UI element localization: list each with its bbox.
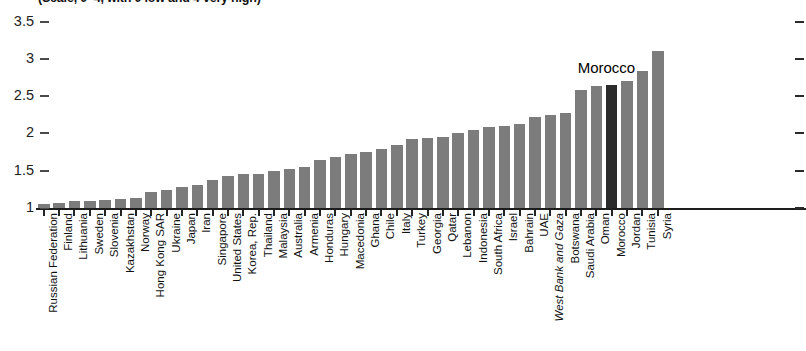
x-axis-label: Chile bbox=[385, 213, 397, 239]
y-axis-tick-mark-right bbox=[795, 132, 804, 134]
x-axis-label: Armenia bbox=[309, 213, 321, 256]
bar bbox=[299, 167, 311, 208]
x-axis-label: Tunisia bbox=[646, 213, 658, 250]
x-axis-label: Russian Federation bbox=[48, 213, 60, 313]
x-axis-label: Finland bbox=[63, 213, 75, 251]
bar bbox=[99, 200, 111, 208]
x-axis-label: Slovenia bbox=[109, 213, 121, 257]
x-axis-label: Australia bbox=[293, 213, 305, 258]
y-axis-tick-label: 2 bbox=[0, 125, 34, 140]
y-axis-tick-label: 1.5 bbox=[0, 163, 34, 178]
bar bbox=[222, 176, 234, 208]
bar bbox=[69, 201, 81, 208]
bar bbox=[545, 115, 557, 208]
bar bbox=[529, 117, 541, 208]
bar bbox=[161, 190, 173, 208]
x-axis-label: Sweden bbox=[94, 213, 106, 255]
bar bbox=[514, 124, 526, 208]
y-axis-tick-mark bbox=[40, 170, 49, 172]
y-axis-tick-mark-right bbox=[795, 21, 804, 23]
bar bbox=[330, 157, 342, 208]
y-axis-tick-mark bbox=[40, 132, 49, 134]
bar bbox=[637, 71, 649, 208]
x-axis-label: Kazakhstan bbox=[125, 213, 137, 273]
x-axis-label: Qatar bbox=[447, 213, 459, 242]
y-axis-tick-mark-right bbox=[795, 170, 804, 172]
bar bbox=[575, 90, 587, 208]
x-axis-label: Malaysia bbox=[278, 213, 290, 258]
bar bbox=[176, 187, 188, 208]
bar bbox=[314, 160, 326, 208]
x-axis-label: Japan bbox=[186, 213, 198, 244]
y-axis-tick-label: 2.5 bbox=[0, 88, 34, 103]
x-axis-label: Oman bbox=[600, 213, 612, 244]
x-axis-label: Lithuania bbox=[78, 213, 90, 260]
x-axis-label: Thailand bbox=[263, 213, 275, 257]
x-axis-label: Bahrain bbox=[524, 213, 536, 253]
x-axis-label: Honduras bbox=[324, 213, 336, 263]
bar bbox=[437, 137, 449, 208]
x-axis-label: Jordan bbox=[631, 213, 643, 248]
x-axis-tick bbox=[43, 210, 45, 216]
plot-area: 11.522.533.5 Russian FederationFinlandLi… bbox=[0, 0, 806, 351]
bar bbox=[84, 201, 96, 208]
bar bbox=[192, 185, 204, 208]
x-axis-label: South Africa bbox=[493, 213, 505, 275]
x-axis-label: Iran bbox=[201, 213, 213, 233]
x-axis-label: UAE bbox=[539, 213, 551, 237]
bar bbox=[130, 198, 142, 208]
y-axis-tick-mark bbox=[40, 21, 49, 23]
bar bbox=[468, 130, 480, 208]
bar bbox=[345, 154, 357, 208]
y-axis-tick-mark-right bbox=[795, 58, 804, 60]
x-axis-label: Israel bbox=[508, 213, 520, 241]
x-axis-label: Saudi Arabia bbox=[585, 213, 597, 278]
bar bbox=[376, 149, 388, 208]
x-axis-label: Hungary bbox=[339, 213, 351, 256]
bar bbox=[560, 113, 572, 208]
x-axis-label: Indonesia bbox=[478, 213, 490, 263]
x-axis-label: Italy bbox=[401, 213, 413, 234]
bar bbox=[145, 192, 157, 208]
x-axis-label: Lebanon bbox=[462, 213, 474, 258]
x-axis-label: Hong Kong SAR bbox=[155, 213, 167, 297]
x-axis-label: Macedonia bbox=[355, 213, 367, 269]
x-axis-label: Korea, Rep. bbox=[247, 213, 259, 274]
x-axis-label: Syria bbox=[662, 213, 674, 239]
x-axis-label: Morocco bbox=[616, 213, 628, 257]
bar bbox=[621, 81, 633, 208]
bar bbox=[452, 133, 464, 208]
y-axis-tick-label: 1 bbox=[0, 200, 34, 215]
bar bbox=[499, 126, 511, 208]
y-axis-tick-label: 3.5 bbox=[0, 14, 34, 29]
bar-annotation-label: Morocco bbox=[578, 59, 636, 76]
bar bbox=[207, 180, 219, 208]
bar bbox=[391, 145, 403, 208]
y-axis-tick-label: 3 bbox=[0, 51, 34, 66]
y-axis-tick-mark-right bbox=[795, 207, 804, 209]
bar bbox=[268, 171, 280, 208]
bar bbox=[406, 139, 418, 208]
y-axis-tick-mark bbox=[40, 95, 49, 97]
y-axis-tick-mark-right bbox=[795, 95, 804, 97]
x-axis-label: Singapore bbox=[217, 213, 229, 265]
y-axis-tick-mark bbox=[40, 58, 49, 60]
bar bbox=[115, 199, 127, 208]
x-axis-label: Norway bbox=[140, 213, 152, 252]
x-axis-label: West Bank and Gaza bbox=[554, 213, 566, 321]
x-axis-label: United States bbox=[232, 213, 244, 282]
bar bbox=[38, 204, 50, 208]
bar bbox=[606, 85, 618, 208]
x-axis-label: Botswana bbox=[570, 213, 582, 264]
bar bbox=[53, 203, 65, 208]
bar bbox=[253, 174, 265, 208]
x-axis-label: Georgia bbox=[432, 213, 444, 254]
x-axis-label: Ukraine bbox=[171, 213, 183, 253]
bar bbox=[284, 169, 296, 208]
x-axis-label: Turkey bbox=[416, 213, 428, 248]
bar bbox=[591, 86, 603, 208]
bar bbox=[483, 127, 495, 208]
bar-chart: (Scale, 0–4, with 0 low and 4 very high)… bbox=[0, 0, 806, 351]
x-axis-label: Ghana bbox=[370, 213, 382, 248]
bar bbox=[422, 138, 434, 208]
